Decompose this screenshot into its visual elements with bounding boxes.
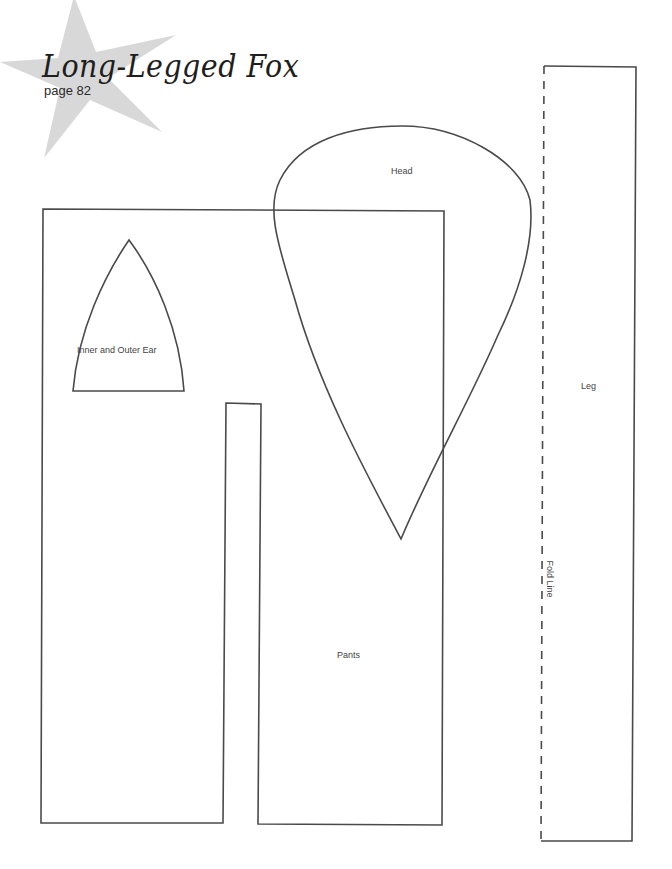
- head-label: Head: [391, 166, 413, 176]
- page-reference: page 82: [44, 83, 91, 98]
- fold-line-label: Fold Line: [545, 560, 555, 597]
- head-outline: [274, 126, 531, 539]
- fold-line: [541, 66, 544, 841]
- ear-outline: [73, 240, 184, 391]
- pattern-artwork: [0, 0, 672, 869]
- page-title: Long-Legged Fox: [42, 48, 299, 84]
- pattern-page: Long-Legged Fox page 82 Head Inner and O…: [0, 0, 672, 869]
- pants-label: Pants: [337, 650, 360, 660]
- ear-label: Inner and Outer Ear: [77, 345, 157, 355]
- pants-outline: [41, 209, 444, 825]
- leg-outline: [541, 66, 636, 841]
- leg-label: Leg: [581, 381, 596, 391]
